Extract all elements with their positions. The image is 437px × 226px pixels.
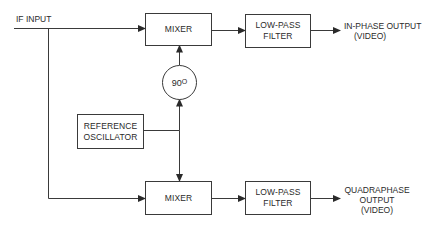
oscillator-line2: OSCILLATOR — [83, 132, 137, 143]
top-filter-box: LOW-PASS FILTER — [245, 14, 311, 48]
top-mixer-box: MIXER — [145, 13, 212, 46]
in-phase-output-label: IN-PHASE OUTPUT (VIDEO) — [344, 21, 421, 41]
phase-shifter-value: 90 — [172, 78, 182, 88]
in-phase-output-line1: IN-PHASE OUTPUT — [344, 21, 421, 31]
quadraphase-output-line3: (VIDEO) — [340, 205, 414, 215]
top-filter-line2: FILTER — [263, 31, 292, 42]
bottom-filter-line2: FILTER — [263, 198, 292, 209]
bottom-filter-line1: LOW-PASS — [256, 187, 301, 198]
quadraphase-output-label: QUADRAPHASE OUTPUT (VIDEO) — [340, 185, 414, 215]
oscillator-line1: REFERENCE — [84, 121, 137, 132]
top-mixer-label: MIXER — [165, 24, 192, 35]
bottom-filter-box: LOW-PASS FILTER — [245, 181, 311, 215]
quadraphase-output-line2: OUTPUT — [340, 195, 414, 205]
reference-oscillator-box: REFERENCE OSCILLATOR — [77, 114, 144, 149]
bottom-mixer-box: MIXER — [145, 181, 212, 215]
top-filter-line1: LOW-PASS — [256, 20, 301, 31]
in-phase-output-line2: (VIDEO) — [344, 31, 421, 41]
quadraphase-output-line1: QUADRAPHASE — [340, 185, 414, 195]
bottom-mixer-label: MIXER — [165, 193, 192, 204]
if-input-label: IF INPUT — [16, 14, 51, 24]
phase-shifter-circle: 90O — [162, 65, 197, 100]
degree-symbol: O — [182, 78, 187, 85]
